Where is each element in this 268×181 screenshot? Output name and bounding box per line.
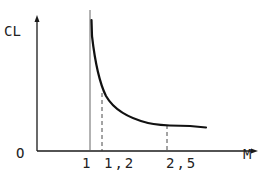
y-axis-arrow-icon xyxy=(35,15,40,22)
cl-curve xyxy=(92,20,207,128)
chart-canvas xyxy=(0,0,268,181)
x-tick-1-2: 1,2 xyxy=(104,156,135,170)
x-axis-label: M xyxy=(243,147,251,161)
origin-label: O xyxy=(16,146,24,160)
x-axis-arrow-icon xyxy=(251,149,258,154)
x-tick-2-5: 2,5 xyxy=(166,156,197,170)
y-axis-label: CL xyxy=(4,24,21,38)
x-tick-1: 1 xyxy=(82,156,90,170)
